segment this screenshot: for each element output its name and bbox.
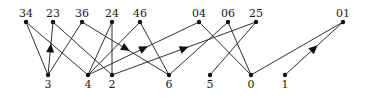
node-2: 2 [109, 73, 116, 91]
edge-06-6 [169, 22, 228, 75]
node-1: 1 [282, 73, 289, 91]
node-dot [254, 20, 258, 24]
node-01: 01 [336, 7, 350, 24]
node-label: 5 [207, 78, 214, 91]
node-dot [110, 20, 114, 24]
node-label: 04 [192, 7, 206, 20]
node-label: 23 [46, 7, 60, 20]
graph-diagram: 3423362446040625013426501 [0, 0, 366, 98]
node-04: 04 [192, 7, 206, 24]
node-dot [110, 73, 114, 77]
edge-06-0 [228, 22, 251, 75]
node-dot [46, 73, 50, 77]
node-label: 0 [248, 78, 255, 91]
node-label: 46 [133, 7, 147, 20]
node-46: 46 [133, 7, 147, 24]
node-label: 36 [75, 7, 89, 20]
arrowhead-icon [179, 43, 190, 54]
node-4: 4 [85, 73, 92, 91]
node-label: 24 [105, 7, 119, 20]
arrowhead-icon [46, 43, 55, 53]
node-label: 4 [85, 78, 92, 91]
edge-24-4 [88, 22, 112, 75]
edge-23-2 [53, 22, 112, 75]
node-label: 01 [336, 7, 350, 20]
node-dot [208, 73, 212, 77]
node-dot [226, 20, 230, 24]
node-dot [197, 20, 201, 24]
node-label: 06 [221, 7, 235, 20]
node-dot [249, 73, 253, 77]
edge-36-3 [48, 22, 82, 75]
node-25: 25 [249, 7, 263, 24]
node-6: 6 [166, 73, 173, 91]
node-label: 34 [19, 7, 33, 20]
node-dot [138, 20, 142, 24]
edge-34-3 [26, 22, 48, 75]
node-dot [283, 73, 287, 77]
node-dot [51, 20, 55, 24]
node-34: 34 [19, 7, 33, 24]
node-dot [86, 73, 90, 77]
node-5: 5 [207, 73, 214, 91]
node-label: 6 [166, 78, 173, 91]
node-dot [341, 20, 345, 24]
arrowhead-icon [138, 43, 150, 54]
node-23: 23 [46, 7, 60, 24]
node-label: 25 [249, 7, 263, 20]
node-3: 3 [45, 73, 52, 91]
node-36: 36 [75, 7, 89, 24]
node-06: 06 [221, 7, 235, 24]
edge-34-4 [26, 22, 88, 75]
edge-25-5 [210, 22, 256, 75]
node-label: 3 [45, 78, 52, 91]
node-24: 24 [105, 7, 119, 24]
node-dot [167, 73, 171, 77]
edge-04-0 [199, 22, 251, 75]
node-label: 2 [109, 78, 116, 91]
node-dot [24, 20, 28, 24]
node-dot [80, 20, 84, 24]
node-label: 1 [282, 78, 289, 91]
edge-0-01 [251, 22, 343, 75]
node-0: 0 [248, 73, 255, 91]
arrowhead-icon [120, 43, 132, 55]
